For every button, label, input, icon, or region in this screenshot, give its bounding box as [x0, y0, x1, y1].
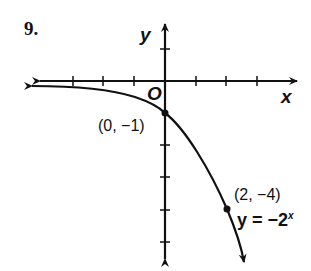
origin-label: O [147, 83, 162, 105]
equation-base: y = −2 [237, 210, 288, 230]
x-axis-label: x [281, 86, 292, 108]
point-label-0-neg1: (0, −1) [98, 117, 145, 135]
point-2-neg4 [224, 206, 231, 213]
problem-number: 9. [24, 18, 38, 40]
function-curve [32, 86, 244, 262]
point-0-neg1 [162, 110, 169, 117]
equation-exponent: x [288, 210, 294, 221]
graph-figure: 9. y x O (0, −1) (2, −4) y = −2x [0, 0, 311, 271]
equation-label: y = −2x [237, 210, 294, 231]
y-axis-label: y [140, 24, 151, 46]
point-label-2-neg4: (2, −4) [234, 186, 281, 204]
